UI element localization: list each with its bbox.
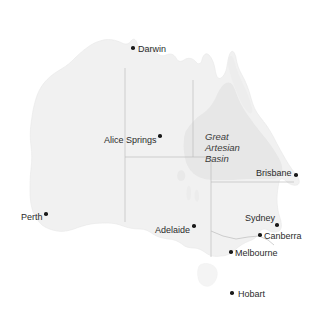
lake-eyre-shape [177,170,185,181]
city-label-canberra[interactable]: Canberra [264,231,302,241]
city-label-alice-springs[interactable]: Alice Springs [104,135,157,145]
city-label-hobart[interactable]: Hobart [238,289,265,299]
city-dot-melbourne[interactable] [229,250,233,254]
city-label-adelaide[interactable]: Adelaide [155,225,190,235]
city-label-brisbane[interactable]: Brisbane [256,168,292,178]
tasmania-shape [198,264,218,287]
city-dot-darwin[interactable] [131,46,135,50]
lake-torrens-shape [187,186,192,200]
city-dot-sydney[interactable] [275,223,279,227]
city-dot-brisbane[interactable] [294,173,298,177]
australia-map: Great Artesian Basin Darwin Alice Spring… [0,0,315,312]
city-dot-hobart[interactable] [230,291,234,295]
city-label-melbourne[interactable]: Melbourne [235,248,278,258]
city-label-darwin[interactable]: Darwin [138,44,166,54]
region-label-great-artesian-basin: Great Artesian Basin [205,131,240,164]
city-dot-adelaide[interactable] [192,224,196,228]
city-dot-canberra[interactable] [258,233,262,237]
city-label-sydney[interactable]: Sydney [245,213,275,223]
city-label-perth[interactable]: Perth [21,212,43,222]
city-dot-perth[interactable] [44,212,48,216]
city-dot-alice-springs[interactable] [158,134,162,138]
